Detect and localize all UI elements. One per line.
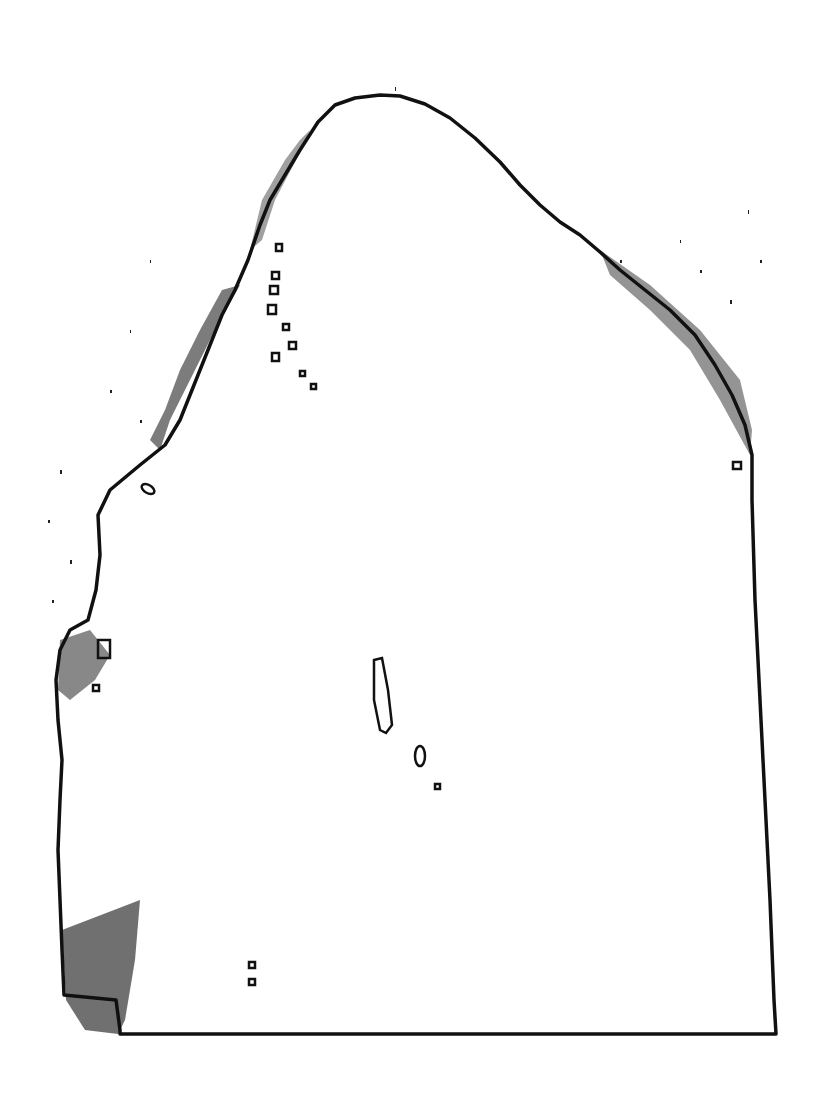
scattered-specks bbox=[48, 87, 762, 603]
contour-drawing bbox=[0, 0, 814, 1104]
inner-contours bbox=[140, 482, 425, 766]
main-outline bbox=[56, 95, 776, 1034]
stipple-noise bbox=[58, 130, 752, 1034]
